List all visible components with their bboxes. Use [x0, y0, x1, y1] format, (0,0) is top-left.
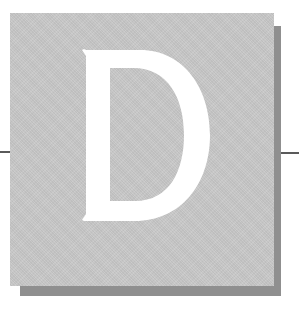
drop-cap-letter-glyph	[0, 0, 299, 310]
